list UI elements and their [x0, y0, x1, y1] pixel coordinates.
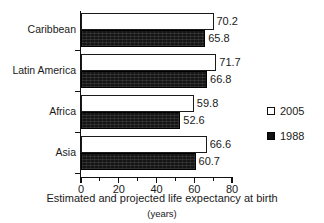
- bar-caribbean-2005: [81, 13, 214, 30]
- bar-latin-america-1988: [81, 71, 207, 88]
- bar-latin-america-2005: [81, 54, 216, 71]
- legend-label-1988: 1988: [280, 130, 304, 142]
- x-tick-minor: [213, 178, 214, 181]
- legend-label-2005: 2005: [280, 105, 304, 117]
- value-label-latin-america-2005: 71.7: [219, 56, 240, 68]
- chart-title: Estimated and projected life expectancy …: [0, 192, 324, 205]
- bar-asia-2005: [81, 136, 207, 153]
- category-label-latin-america: Latin America: [12, 64, 76, 76]
- value-label-africa-2005: 59.8: [197, 97, 218, 109]
- bar-africa-2005: [81, 95, 194, 112]
- chart-subtitle: (years): [0, 207, 324, 220]
- bar-caribbean-1988: [81, 30, 205, 47]
- bar-africa-1988: [81, 112, 180, 129]
- y-tick: [75, 50, 80, 51]
- value-label-latin-america-1988: 66.8: [210, 73, 231, 85]
- category-label-asia: Asia: [56, 146, 76, 158]
- y-tick: [75, 173, 80, 174]
- value-label-caribbean-1988: 65.8: [208, 32, 229, 44]
- category-label-africa: Africa: [49, 105, 76, 117]
- value-label-asia-2005: 66.6: [210, 138, 231, 150]
- x-tick-minor: [175, 178, 176, 181]
- value-label-africa-1988: 52.6: [183, 114, 204, 126]
- legend-item-2005[interactable]: 2005: [267, 105, 304, 117]
- value-label-asia-1988: 60.7: [199, 155, 220, 167]
- legend-item-1988[interactable]: 1988: [267, 130, 304, 142]
- legend-swatch-1988: [267, 132, 275, 140]
- y-tick: [75, 91, 80, 92]
- legend-swatch-2005: [267, 107, 275, 115]
- value-label-caribbean-2005: 70.2: [217, 15, 238, 27]
- x-tick-minor: [99, 178, 100, 181]
- bar-asia-1988: [81, 153, 196, 170]
- x-tick-minor: [137, 178, 138, 181]
- y-tick: [75, 132, 80, 133]
- category-label-caribbean: Caribbean: [28, 23, 76, 35]
- bar-chart: 020406080 CaribbeanLatin AmericaAfricaAs…: [0, 0, 324, 223]
